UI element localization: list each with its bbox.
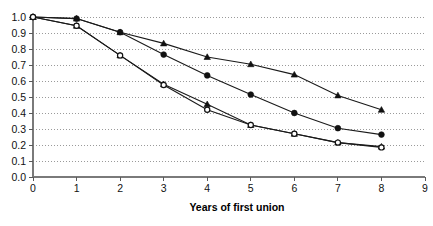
y-tick-label-0.4: 0.4 <box>11 107 26 119</box>
series-2-marker-1 <box>74 16 80 22</box>
series-3-marker-4 <box>204 101 210 107</box>
series-1 <box>30 14 385 112</box>
chart-container: 0.00.10.20.30.40.50.60.70.80.91.0 012345… <box>0 0 433 226</box>
y-tick-label-0.8: 0.8 <box>11 43 26 55</box>
x-tick-label-7: 7 <box>335 182 341 194</box>
x-tick-label-5: 5 <box>248 182 254 194</box>
x-tick-label-2: 2 <box>117 182 123 194</box>
y-tick-label-0.7: 0.7 <box>11 59 26 71</box>
x-axis-ticks: 0123456789 <box>30 177 428 194</box>
series-4-line <box>33 17 381 147</box>
x-tick-label-8: 8 <box>379 182 385 194</box>
y-tick-label-0.3: 0.3 <box>11 123 26 135</box>
series-4-marker-6 <box>292 131 297 136</box>
y-axis-ticks: 0.00.10.20.30.40.50.60.70.80.91.0 <box>11 11 33 183</box>
y-tick-label-0.0: 0.0 <box>11 171 26 183</box>
survival-line-chart: 0.00.10.20.30.40.50.60.70.80.91.0 012345… <box>0 0 433 226</box>
x-tick-label-0: 0 <box>30 182 36 194</box>
series-1-marker-7 <box>335 92 341 98</box>
series-layer <box>30 14 385 150</box>
x-axis-title: Years of first union <box>189 201 284 213</box>
series-4-marker-4 <box>205 107 210 112</box>
gridlines <box>33 17 425 161</box>
series-2-marker-7 <box>335 125 341 131</box>
series-4-marker-7 <box>335 140 340 145</box>
x-tick-label-6: 6 <box>291 182 297 194</box>
series-2-marker-3 <box>161 52 167 58</box>
x-tick-label-9: 9 <box>422 182 428 194</box>
series-4-marker-1 <box>74 23 79 28</box>
series-4-marker-8 <box>379 145 384 150</box>
series-1-line <box>33 17 381 110</box>
series-2-marker-6 <box>291 110 297 116</box>
series-4-marker-3 <box>161 82 166 87</box>
y-tick-label-0.9: 0.9 <box>11 27 26 39</box>
series-2-marker-5 <box>248 92 254 98</box>
y-tick-label-0.1: 0.1 <box>11 155 26 167</box>
y-tick-label-0.2: 0.2 <box>11 139 26 151</box>
series-4 <box>30 14 384 150</box>
series-2-marker-4 <box>204 73 210 79</box>
x-tick-label-4: 4 <box>204 182 210 194</box>
y-tick-label-0.5: 0.5 <box>11 91 26 103</box>
series-2-marker-2 <box>117 29 123 35</box>
series-4-marker-0 <box>30 14 35 19</box>
y-tick-label-1.0: 1.0 <box>11 11 26 23</box>
y-tick-label-0.6: 0.6 <box>11 75 26 87</box>
series-4-marker-5 <box>248 122 253 127</box>
x-tick-label-1: 1 <box>74 182 80 194</box>
x-tick-label-3: 3 <box>161 182 167 194</box>
series-2-marker-8 <box>379 132 385 138</box>
series-3-line <box>33 17 381 147</box>
series-4-marker-2 <box>118 53 123 58</box>
